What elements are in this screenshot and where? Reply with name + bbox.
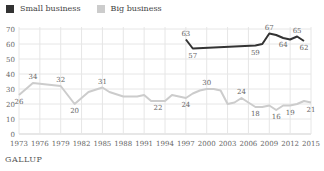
x-tick-label: 2015 <box>302 140 320 148</box>
data-label: 16 <box>272 113 281 121</box>
x-tick-label: 1973 <box>10 140 28 148</box>
y-tick-label: 40 <box>6 71 15 79</box>
data-label: 59 <box>251 49 260 57</box>
data-label: 24 <box>181 101 190 109</box>
data-label: 67 <box>265 24 274 32</box>
data-label: 63 <box>181 30 190 38</box>
line-chart: 010203040506070 197319761979198219851988… <box>0 0 324 171</box>
x-tick-label: 1994 <box>156 140 174 148</box>
x-tick-label: 2006 <box>240 140 258 148</box>
y-tick-label: 0 <box>11 131 15 139</box>
x-tick-label: 2012 <box>281 140 299 148</box>
x-tick-label: 1988 <box>114 140 132 148</box>
y-tick-label: 70 <box>6 26 15 34</box>
data-label: 18 <box>251 110 260 118</box>
x-tick-label: 2000 <box>198 140 216 148</box>
x-tick-label: 2009 <box>260 140 278 148</box>
x-axis-ticks: 1973197619791982198519881991199419972000… <box>10 140 320 148</box>
data-label: 26 <box>15 98 24 106</box>
y-tick-label: 10 <box>6 116 15 124</box>
x-tick-label: 1985 <box>94 140 112 148</box>
data-label: 24 <box>237 88 246 96</box>
data-label: 22 <box>154 104 163 112</box>
y-axis-ticks: 010203040506070 <box>6 26 15 139</box>
data-label: 62 <box>300 44 309 52</box>
y-tick-label: 30 <box>6 86 15 94</box>
x-tick-label: 2003 <box>219 140 237 148</box>
data-label: 34 <box>28 73 37 81</box>
x-tick-label: 1976 <box>31 140 49 148</box>
y-tick-label: 60 <box>6 41 15 49</box>
data-label: 19 <box>286 109 295 117</box>
gallup-logo: GALLUP <box>5 155 42 164</box>
data-label: 65 <box>293 27 302 35</box>
data-label: 21 <box>307 106 316 114</box>
data-label: 31 <box>98 78 107 86</box>
x-tick-label: 1979 <box>52 140 70 148</box>
data-label: 30 <box>202 79 211 87</box>
data-label: 32 <box>56 76 65 84</box>
data-label: 57 <box>188 52 197 60</box>
x-tick-label: 1982 <box>73 140 91 148</box>
y-tick-label: 50 <box>6 56 15 64</box>
data-label: 64 <box>279 41 288 49</box>
x-tick-label: 1997 <box>177 140 195 148</box>
x-tick-label: 1991 <box>135 140 153 148</box>
data-label: 20 <box>70 107 79 115</box>
